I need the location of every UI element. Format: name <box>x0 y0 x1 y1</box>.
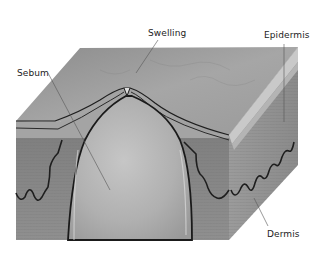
label-sebum: Sebum <box>17 68 49 78</box>
label-dermis: Dermis <box>267 229 300 239</box>
label-swelling: Swelling <box>148 28 186 38</box>
label-epidermis: Epidermis <box>264 30 310 40</box>
skin-cyst-illustration: Swelling Epidermis Sebum Dermis <box>0 0 318 254</box>
